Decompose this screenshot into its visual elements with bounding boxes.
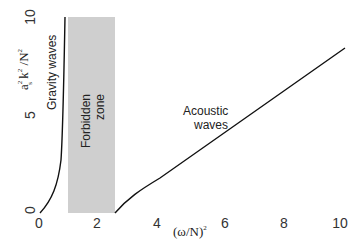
y-axis-label: a2s k2 /N2	[16, 48, 34, 90]
x-tick-2: 2	[93, 215, 101, 231]
y-tick-5: 5	[22, 111, 38, 119]
acoustic-label-2: waves	[193, 118, 228, 132]
forbidden-label-1: Forbidden	[79, 94, 93, 148]
gravity-waves-label: Gravity waves	[45, 35, 59, 110]
x-axis-label: (ω/N)2	[173, 224, 207, 239]
y-tick-0: 0	[22, 206, 38, 214]
x-tick-10: 10	[332, 215, 348, 231]
acoustic-waves-curve	[115, 48, 345, 213]
x-tick-8: 8	[280, 215, 288, 231]
x-tick-4: 4	[153, 215, 161, 231]
y-tick-10: 10	[22, 9, 38, 25]
x-tick-6: 6	[221, 215, 229, 231]
acoustic-label-1: Acoustic	[183, 104, 228, 118]
dispersion-chart: Forbidden zone Gravity waves Acoustic wa…	[0, 0, 363, 251]
x-tick-0: 0	[35, 215, 43, 231]
forbidden-label-2: zone	[93, 94, 107, 120]
